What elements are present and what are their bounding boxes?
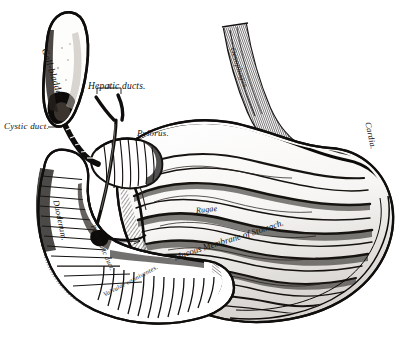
stomach-duodenum-engraving: Mucous Membrane of Stomach. [0,0,404,341]
anatomical-plate: Mucous Membrane of Stomach. Gall-bladder… [0,0,404,341]
